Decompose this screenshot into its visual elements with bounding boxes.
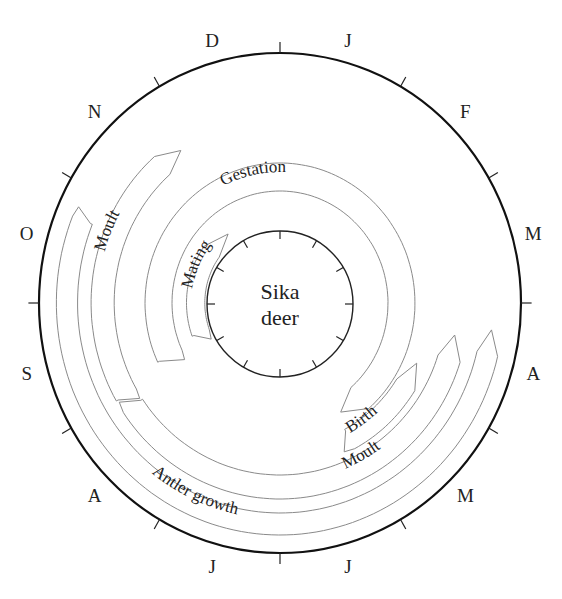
center-label-line2: deer <box>261 305 300 330</box>
inner-tick <box>336 337 343 341</box>
month-label: A <box>526 363 540 384</box>
inner-tick <box>244 360 248 367</box>
month-label: N <box>88 101 102 122</box>
band-labels: Antler growthMoultMoultBirthGestationMat… <box>90 157 388 518</box>
month-label: J <box>208 556 215 577</box>
month-label: D <box>205 30 219 51</box>
inner-month-ring <box>207 231 353 377</box>
inner-tick <box>336 268 343 272</box>
month-tick <box>62 173 71 179</box>
antler-growth-band <box>56 207 497 535</box>
inner-tick <box>217 268 224 272</box>
month-label: S <box>21 363 32 384</box>
month-label: O <box>20 223 34 244</box>
moult-autumn-label: Moult <box>90 206 123 253</box>
moult-autumn-band <box>91 151 181 402</box>
month-tick <box>154 77 159 87</box>
inner-ring-ticks <box>207 231 353 377</box>
month-label: J <box>344 556 351 577</box>
month-label: M <box>457 485 474 506</box>
center-label-line1: Sika <box>260 279 299 304</box>
inner-tick <box>313 360 317 367</box>
birth-band <box>344 363 417 452</box>
month-tick <box>401 77 406 87</box>
month-tick <box>489 173 498 179</box>
inner-tick <box>244 241 248 248</box>
mating-label: Mating <box>177 236 215 291</box>
month-tick <box>401 520 406 530</box>
inner-tick <box>313 241 317 248</box>
antler-growth-label: Antler growth <box>149 461 241 518</box>
month-tick <box>489 428 498 434</box>
month-label: M <box>525 223 542 244</box>
month-label: A <box>88 485 102 506</box>
month-label: J <box>344 30 351 51</box>
activity-bands <box>56 151 497 536</box>
inner-tick <box>217 337 224 341</box>
month-tick <box>62 428 71 434</box>
month-tick <box>154 520 159 530</box>
gestation-label: Gestation <box>216 157 286 190</box>
month-label: F <box>460 101 471 122</box>
sika-deer-annual-cycle-diagram: JFMAMJJASOND Sika deer Antler growthMoul… <box>0 0 562 599</box>
